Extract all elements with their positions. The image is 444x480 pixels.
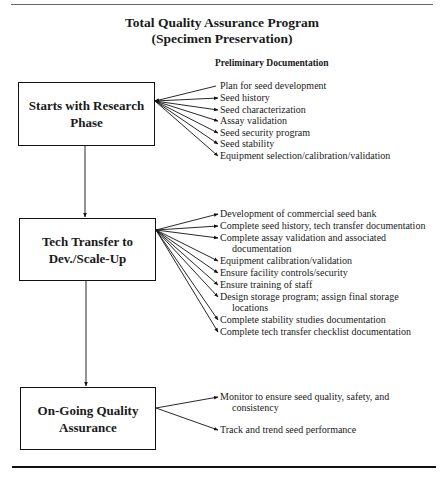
- bottom-rule: [12, 466, 436, 468]
- list-item: Seed history: [220, 92, 270, 103]
- list-item: Complete tech transfer checklist documen…: [220, 326, 411, 337]
- list-item-continuation: documentation: [220, 243, 386, 254]
- list-item: Assay validation: [220, 115, 287, 126]
- list-item-continuation: consistency: [220, 402, 389, 413]
- stage-label-line2: Phase: [29, 114, 144, 131]
- stage-label-line1: Tech Transfer to: [42, 233, 133, 250]
- stage-box-tech-transfer: Tech Transfer to Dev./Scale-Up: [19, 218, 156, 281]
- list-item: Complete assay validation and associated…: [220, 232, 386, 254]
- list-item: Design storage program; assign final sto…: [220, 291, 399, 313]
- stage-label-line2: Dev./Scale-Up: [42, 250, 133, 267]
- list-item: Equipment selection/calibration/validati…: [220, 150, 390, 161]
- stage-label-line1: Starts with Research: [29, 97, 144, 114]
- list-item-text: Complete assay validation and associated: [220, 232, 386, 243]
- stage-label-line2: Assurance: [38, 419, 139, 436]
- list-item: Monitor to ensure seed quality, safety, …: [220, 391, 389, 413]
- stage-label-line1: On-Going Quality: [38, 402, 139, 419]
- list-item-text: Monitor to ensure seed quality, safety, …: [220, 391, 389, 402]
- stage-box-research: Starts with Research Phase: [18, 82, 155, 146]
- stage-box-ongoing-qa: On-Going Quality Assurance: [20, 387, 156, 450]
- list-item: Equipment calibration/validation: [220, 255, 352, 266]
- list-item: Seed security program: [220, 127, 310, 138]
- list-item: Track and trend seed performance: [220, 424, 356, 435]
- list-item: Seed characterization: [220, 104, 306, 115]
- list-item: Plan for seed development: [220, 80, 326, 91]
- list-item: Seed stability: [220, 138, 274, 149]
- list-item: Ensure facility controls/security: [220, 267, 348, 278]
- list-item: Complete stability studies documentation: [220, 314, 386, 325]
- list-item-text: Design storage program; assign final sto…: [220, 291, 399, 302]
- list-item-continuation: locations: [220, 302, 399, 313]
- list-item: Development of commercial seed bank: [220, 208, 377, 219]
- list-item: Ensure training of staff: [220, 279, 312, 290]
- list-item: Complete seed history, tech transfer doc…: [220, 220, 425, 231]
